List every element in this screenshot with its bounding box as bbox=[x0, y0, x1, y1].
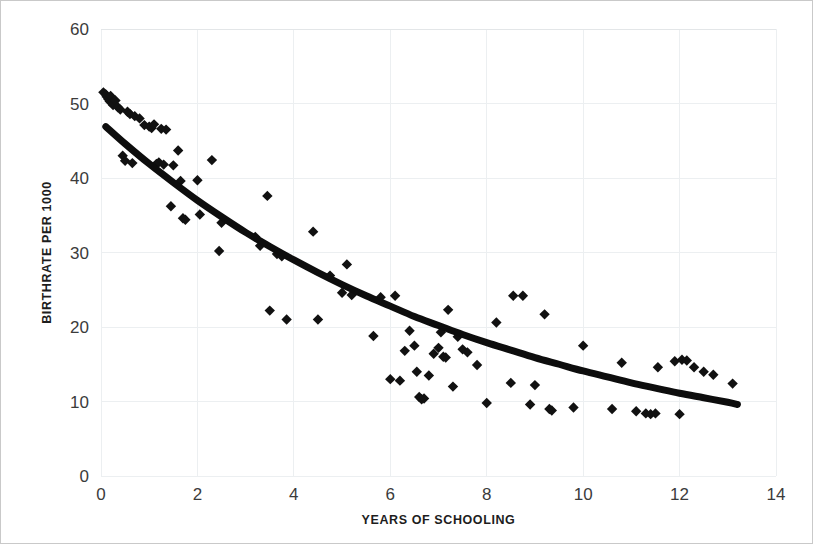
data-point bbox=[390, 291, 400, 301]
data-point bbox=[400, 346, 410, 356]
y-axis-title: BIRTHRATE PER 1000 bbox=[40, 181, 54, 324]
x-tick-label: 0 bbox=[96, 485, 105, 504]
data-point bbox=[192, 175, 202, 185]
x-axis-tick-labels: 02468101214 bbox=[96, 485, 785, 504]
chart-canvas: 02468101214 0102030405060 YEARS OF SCHOO… bbox=[1, 1, 813, 544]
data-point bbox=[195, 209, 205, 219]
y-tick-label: 50 bbox=[70, 95, 89, 114]
data-point bbox=[525, 399, 535, 409]
data-point bbox=[214, 246, 224, 256]
x-tick-label: 6 bbox=[386, 485, 395, 504]
data-point bbox=[281, 314, 291, 324]
data-point bbox=[539, 309, 549, 319]
data-point bbox=[448, 381, 458, 391]
y-tick-label: 10 bbox=[70, 393, 89, 412]
data-point bbox=[578, 340, 588, 350]
data-point bbox=[653, 362, 663, 372]
data-point bbox=[168, 160, 178, 170]
data-point bbox=[412, 367, 422, 377]
data-point bbox=[530, 380, 540, 390]
data-point bbox=[424, 370, 434, 380]
data-point bbox=[262, 191, 272, 201]
data-point bbox=[491, 317, 501, 327]
data-point bbox=[698, 367, 708, 377]
data-point bbox=[472, 360, 482, 370]
y-tick-label: 30 bbox=[70, 244, 89, 263]
x-tick-label: 14 bbox=[767, 485, 786, 504]
data-point bbox=[568, 402, 578, 412]
y-tick-label: 40 bbox=[70, 169, 89, 188]
data-point bbox=[443, 305, 453, 315]
data-point bbox=[173, 145, 183, 155]
data-point bbox=[166, 201, 176, 211]
data-point bbox=[395, 375, 405, 385]
scatter-chart: 02468101214 0102030405060 YEARS OF SCHOO… bbox=[1, 1, 813, 544]
data-point bbox=[265, 305, 275, 315]
trendline bbox=[106, 127, 738, 405]
figure-frame: 02468101214 0102030405060 YEARS OF SCHOO… bbox=[0, 0, 813, 544]
data-point bbox=[482, 398, 492, 408]
data-point bbox=[674, 409, 684, 419]
x-axis-title: YEARS OF SCHOOLING bbox=[362, 513, 516, 527]
x-tick-label: 4 bbox=[289, 485, 298, 504]
y-tick-label: 0 bbox=[80, 467, 89, 486]
data-point bbox=[631, 406, 641, 416]
data-point bbox=[689, 362, 699, 372]
data-point-markers bbox=[98, 87, 738, 419]
data-point bbox=[708, 369, 718, 379]
y-axis-tick-labels: 0102030405060 bbox=[70, 20, 89, 486]
x-tick-label: 8 bbox=[482, 485, 491, 504]
data-point bbox=[518, 291, 528, 301]
data-point bbox=[385, 374, 395, 384]
data-point bbox=[409, 340, 419, 350]
x-tick-label: 12 bbox=[670, 485, 689, 504]
data-point bbox=[506, 378, 516, 388]
data-point bbox=[727, 378, 737, 388]
x-tick-label: 2 bbox=[193, 485, 202, 504]
y-tick-label: 60 bbox=[70, 20, 89, 39]
data-point bbox=[617, 358, 627, 368]
y-tick-label: 20 bbox=[70, 318, 89, 337]
data-point bbox=[508, 291, 518, 301]
gridlines bbox=[101, 29, 776, 476]
x-tick-label: 10 bbox=[574, 485, 593, 504]
data-point bbox=[313, 314, 323, 324]
data-point bbox=[342, 259, 352, 269]
data-point bbox=[308, 226, 318, 236]
data-point bbox=[207, 155, 217, 165]
data-point bbox=[368, 331, 378, 341]
data-point bbox=[607, 404, 617, 414]
